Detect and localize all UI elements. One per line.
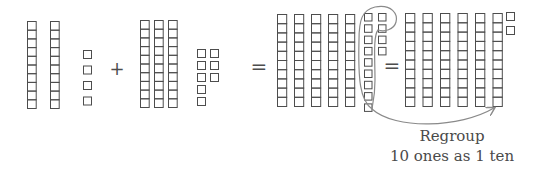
unit-cell bbox=[346, 15, 355, 24]
unit-cell bbox=[476, 60, 485, 69]
unit-cell bbox=[155, 90, 164, 99]
regroup-label: Regroup bbox=[352, 126, 542, 146]
regroup-description: 10 ones as 1 ten bbox=[352, 146, 542, 166]
unit-cell bbox=[423, 14, 432, 23]
ten-rod bbox=[458, 14, 467, 107]
unit-cell bbox=[278, 24, 287, 33]
unit-cell bbox=[312, 33, 321, 42]
unit-cell bbox=[278, 79, 287, 88]
unit-cell bbox=[312, 70, 321, 79]
unit-cell bbox=[329, 15, 338, 24]
unit-cell bbox=[406, 69, 415, 78]
one-cube bbox=[198, 74, 206, 82]
ten-rod bbox=[423, 14, 432, 107]
unit-cell bbox=[476, 41, 485, 50]
unit-cell bbox=[295, 24, 304, 33]
unit-cell bbox=[458, 69, 467, 78]
unit-cell bbox=[329, 42, 338, 51]
unit-cell bbox=[312, 24, 321, 33]
unit-cell bbox=[51, 91, 60, 100]
one-cube bbox=[211, 74, 219, 82]
unit-cell bbox=[51, 22, 60, 31]
unit-cell bbox=[278, 70, 287, 79]
one-cube bbox=[198, 86, 206, 94]
one-cube bbox=[365, 14, 373, 22]
unit-cell bbox=[406, 79, 415, 88]
unit-cell bbox=[493, 41, 502, 50]
unit-cell bbox=[295, 79, 304, 88]
ten-rod bbox=[346, 15, 355, 107]
unit-cell bbox=[28, 82, 37, 91]
unit-cell bbox=[329, 88, 338, 97]
ten-rod bbox=[406, 14, 415, 107]
unit-cell bbox=[312, 42, 321, 51]
one-cube bbox=[365, 47, 373, 55]
unit-cell bbox=[458, 14, 467, 23]
unit-cell bbox=[458, 23, 467, 32]
one-cube bbox=[365, 36, 373, 44]
unit-cell bbox=[155, 29, 164, 38]
unit-cell bbox=[423, 69, 432, 78]
unit-cell bbox=[295, 51, 304, 60]
unit-cell bbox=[458, 79, 467, 88]
plus-sign: + bbox=[109, 58, 124, 79]
unit-cell bbox=[295, 61, 304, 70]
unit-cell bbox=[169, 99, 178, 108]
one-cube bbox=[198, 50, 206, 58]
unit-cell bbox=[141, 64, 150, 73]
one-cube bbox=[379, 14, 387, 22]
unit-cell bbox=[278, 33, 287, 42]
unit-cell bbox=[312, 15, 321, 24]
unit-cell bbox=[51, 82, 60, 91]
unit-cell bbox=[493, 23, 502, 32]
unit-cell bbox=[493, 32, 502, 41]
unit-cell bbox=[406, 14, 415, 23]
unit-cell bbox=[295, 70, 304, 79]
unit-cell bbox=[329, 33, 338, 42]
ten-rod bbox=[493, 14, 502, 107]
unit-cell bbox=[423, 51, 432, 60]
unit-cell bbox=[28, 48, 37, 57]
ten-rod bbox=[476, 14, 485, 107]
unit-cell bbox=[493, 14, 502, 23]
unit-cell bbox=[458, 41, 467, 50]
unit-cell bbox=[169, 64, 178, 73]
unit-cell bbox=[346, 61, 355, 70]
unit-cell bbox=[329, 70, 338, 79]
unit-cell bbox=[423, 88, 432, 97]
unit-cell bbox=[406, 32, 415, 41]
unit-cell bbox=[493, 97, 502, 106]
unit-cell bbox=[441, 69, 450, 78]
one-cube bbox=[198, 62, 206, 70]
one-cube bbox=[84, 66, 92, 74]
unit-cell bbox=[51, 56, 60, 65]
unit-cell bbox=[141, 55, 150, 64]
unit-cell bbox=[406, 23, 415, 32]
unit-cell bbox=[346, 97, 355, 106]
unit-cell bbox=[169, 21, 178, 30]
unit-cell bbox=[476, 14, 485, 23]
unit-cell bbox=[441, 41, 450, 50]
unit-cell bbox=[169, 29, 178, 38]
unit-cell bbox=[476, 69, 485, 78]
ten-rod bbox=[169, 21, 178, 108]
one-cube bbox=[365, 25, 373, 33]
unit-cell bbox=[329, 79, 338, 88]
unit-cell bbox=[278, 97, 287, 106]
unit-cell bbox=[458, 32, 467, 41]
one-cube bbox=[211, 62, 219, 70]
unit-cell bbox=[295, 97, 304, 106]
equals-sign-2: = bbox=[384, 54, 401, 78]
unit-cell bbox=[169, 38, 178, 47]
unit-cell bbox=[155, 38, 164, 47]
ten-rod bbox=[441, 14, 450, 107]
one-cube bbox=[365, 93, 373, 101]
unit-cell bbox=[346, 70, 355, 79]
ten-rod bbox=[155, 21, 164, 108]
addend-2-blocks bbox=[141, 21, 219, 108]
one-cube bbox=[379, 36, 387, 44]
unit-cell bbox=[28, 100, 37, 109]
unit-cell bbox=[278, 88, 287, 97]
unit-cell bbox=[28, 22, 37, 31]
unit-cell bbox=[423, 97, 432, 106]
